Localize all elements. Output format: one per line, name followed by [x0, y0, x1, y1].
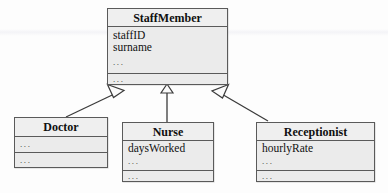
attributes-ellipsis-receptionist: ... [257, 157, 374, 166]
attribute-daysworked: daysWorked [123, 142, 213, 154]
class-box-doctor[interactable]: Doctor ... ... [14, 117, 108, 168]
operations-ellipsis-receptionist: ... [257, 172, 374, 181]
generalization-nurse [161, 84, 173, 122]
operations-compartment-doctor: ... [15, 152, 107, 167]
class-box-staffmember[interactable]: StaffMember staffID surname ... ... [107, 8, 228, 85]
operations-ellipsis-nurse: ... [123, 172, 213, 181]
operations-compartment-nurse: ... [123, 170, 213, 181]
class-box-receptionist[interactable]: Receptionist hourlyRate ... ... [256, 122, 375, 182]
operations-compartment-receptionist: ... [257, 170, 374, 181]
operations-compartment-staffmember: ... [108, 73, 227, 84]
attribute-surname: surname [108, 41, 227, 53]
operations-ellipsis-staffmember: ... [108, 75, 227, 84]
generalization-doctor [66, 85, 124, 118]
class-name-nurse: Nurse [123, 123, 213, 141]
attribute-staffid: staffID [108, 29, 227, 41]
attributes-compartment-receptionist: hourlyRate ... [257, 141, 374, 170]
attributes-ellipsis-doctor: ... [15, 140, 107, 149]
operations-ellipsis-doctor: ... [15, 156, 107, 165]
uml-class-diagram-canvas: StaffMember staffID surname ... ... Doct… [0, 0, 388, 193]
attributes-compartment-doctor: ... [15, 137, 107, 152]
class-box-nurse[interactable]: Nurse daysWorked ... ... [122, 122, 214, 182]
attributes-ellipsis-nurse: ... [123, 157, 213, 166]
class-name-receptionist: Receptionist [257, 123, 374, 141]
attribute-hourlyrate: hourlyRate [257, 142, 374, 154]
attributes-compartment-nurse: daysWorked ... [123, 141, 213, 170]
attributes-compartment-staffmember: staffID surname ... [108, 27, 227, 73]
class-name-staffmember: StaffMember [108, 9, 227, 27]
generalization-receptionist [212, 85, 268, 122]
class-name-doctor: Doctor [15, 118, 107, 137]
attributes-ellipsis-staffmember: ... [108, 58, 227, 67]
